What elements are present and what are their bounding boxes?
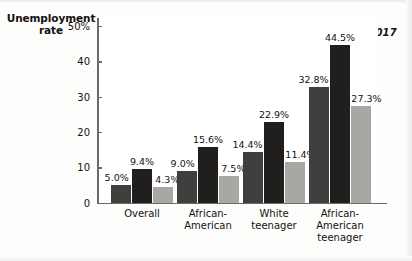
y-tick-label: 40 — [77, 56, 90, 67]
bar-2007: 9.0% — [177, 171, 197, 203]
bar-2010: 15.6% — [198, 147, 218, 202]
y-tick-label: 10 — [77, 162, 90, 173]
bar-value-label: 32.8% — [298, 74, 328, 85]
y-tick-mark — [97, 97, 102, 98]
category-label: African- American teenager — [295, 208, 385, 244]
bar-2017: 27.3% — [351, 106, 371, 202]
bar-value-label: 27.3% — [351, 93, 381, 104]
y-tick-mark — [97, 132, 102, 133]
bar-group: 32.8%44.5%27.3% — [309, 18, 371, 204]
bar-2017: 7.5% — [219, 176, 239, 202]
y-tick-label: 30 — [77, 91, 90, 102]
bar-value-label: 15.6% — [193, 134, 223, 145]
bar-group: 14.4%22.9%11.4% — [243, 18, 305, 204]
y-tick-label: 50% — [68, 21, 90, 32]
bar-value-label: 14.4% — [232, 139, 262, 150]
bar-2007: 32.8% — [309, 87, 329, 203]
y-tick-mark — [97, 26, 102, 27]
bar-2010: 9.4% — [132, 169, 152, 202]
y-tick-mark — [97, 61, 102, 62]
bar-value-label: 22.9% — [259, 109, 289, 120]
bar-value-label: 4.3% — [155, 174, 179, 185]
page-edge-top — [0, 0, 412, 3]
y-axis-line — [97, 18, 99, 204]
y-tick-mark — [97, 167, 102, 168]
page-edge-right — [406, 0, 412, 261]
bar-group: 9.0%15.6%7.5% — [177, 18, 239, 204]
bar-2007: 14.4% — [243, 152, 263, 203]
bar-2017: 11.4% — [285, 162, 305, 202]
bar-value-label: 44.5% — [325, 32, 355, 43]
plot-area: 01020304050% 5.0%9.4%4.3%9.0%15.6%7.5%14… — [97, 18, 378, 204]
bar-value-label: 7.5% — [221, 163, 245, 174]
bar-value-label: 9.0% — [171, 158, 195, 169]
bar-2017: 4.3% — [153, 187, 173, 202]
y-tick-label: 20 — [77, 126, 90, 137]
bar-2010: 22.9% — [264, 122, 284, 203]
bar-group: 5.0%9.4%4.3% — [111, 18, 173, 204]
bar-2010: 44.5% — [330, 45, 350, 202]
y-tick-mark — [97, 203, 102, 204]
chart-figure: Unemployment rate 2007 2010 2017 0102030… — [0, 0, 412, 261]
bar-value-label: 5.0% — [105, 172, 129, 183]
bar-value-label: 9.4% — [130, 156, 154, 167]
page-edge-bottom — [0, 256, 412, 261]
y-tick-label: 0 — [84, 197, 90, 208]
bar-2007: 5.0% — [111, 185, 131, 203]
